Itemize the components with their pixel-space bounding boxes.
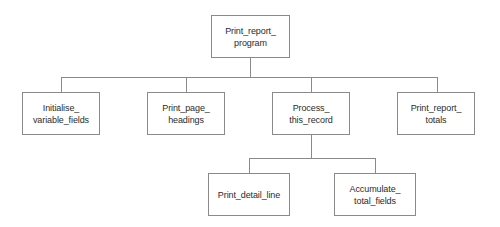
node-label-accumulate_total_fields: Accumulate_ total_fields <box>347 183 404 207</box>
node-box-print_page_headings[interactable]: Print_page_ headings <box>147 92 225 135</box>
node-label-print_page_headings: Print_page_ headings <box>159 102 212 126</box>
node-box-print_detail_line[interactable]: Print_detail_line <box>208 173 290 216</box>
node-label-print_report_totals: Print_report_ totals <box>408 102 465 126</box>
node-box-accumulate_total_fields[interactable]: Accumulate_ total_fields <box>334 173 416 216</box>
node-label-initialise_variable_fields: Initialise_ variable_fields <box>30 102 92 126</box>
node-label-print_detail_line: Print_detail_line <box>215 189 283 201</box>
node-label-process_this_record: Process_ this_record <box>286 102 335 126</box>
node-box-initialise_variable_fields[interactable]: Initialise_ variable_fields <box>22 92 100 135</box>
node-box-print_report_totals[interactable]: Print_report_ totals <box>397 92 475 135</box>
structure-chart-diagram: Print_report_ programInitialise_ variabl… <box>0 0 500 227</box>
node-label-print_report_program: Print_report_ program <box>222 25 279 49</box>
node-box-print_report_program[interactable]: Print_report_ program <box>211 15 290 58</box>
node-box-process_this_record[interactable]: Process_ this_record <box>272 92 350 135</box>
